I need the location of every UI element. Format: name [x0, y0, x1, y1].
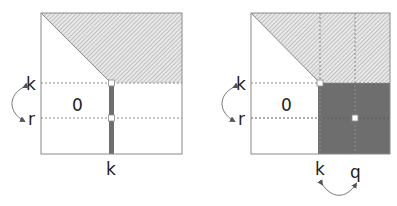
right-hatched-region: [251, 13, 390, 83]
right-col-swap-arrow-icon: [322, 184, 356, 195]
left-col-label-k: k: [106, 159, 116, 179]
left-row-label-k: k: [26, 74, 36, 94]
right-col-label-k: k: [315, 159, 325, 179]
left-row-swap-arrow-icon: [12, 87, 24, 121]
left-cell-rk: [109, 115, 115, 121]
left-pivot-cell-kk: [109, 80, 115, 86]
right-row-swap-arrow-icon: [222, 87, 234, 121]
left-hatched-region: [41, 13, 182, 83]
right-row-label-k: k: [236, 74, 246, 94]
right-col-label-q: q: [350, 162, 361, 182]
right-cell-rq: [352, 115, 358, 121]
matrix-swap-diagram: 0 k r k 0 k r k: [0, 0, 397, 206]
right-row-label-r: r: [238, 109, 245, 129]
right-zero-label: 0: [281, 95, 292, 115]
left-row-label-r: r: [28, 109, 35, 129]
left-matrix: 0 k r k: [12, 13, 182, 179]
right-matrix: 0 k r k q: [222, 13, 390, 195]
left-zero-label: 0: [72, 95, 83, 115]
right-pivot-cell-kk: [317, 80, 323, 86]
